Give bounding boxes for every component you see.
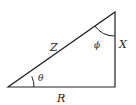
label-z: Z: [49, 41, 58, 54]
label-phi: ϕ: [94, 40, 100, 50]
label-theta: θ: [38, 73, 44, 83]
label-x: X: [118, 38, 128, 51]
impedance-triangle-diagram: Z ϕ X θ R: [0, 0, 136, 105]
label-r: R: [56, 92, 65, 105]
theta-arc: [32, 77, 34, 88]
phi-arc: [95, 26, 115, 36]
